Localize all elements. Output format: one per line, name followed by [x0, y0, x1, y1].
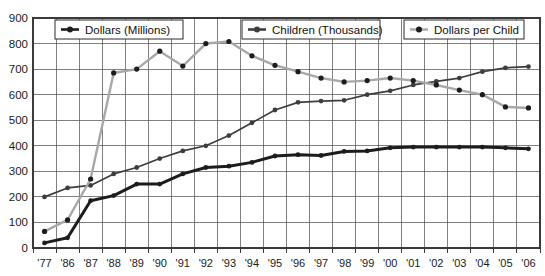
data-point	[295, 69, 300, 74]
x-axis-tick-label: '89	[130, 257, 144, 269]
legend-item-1: Children (Thousands)	[242, 20, 383, 39]
x-axis-tick-label: '00	[383, 257, 397, 269]
data-point	[388, 145, 393, 150]
data-point	[250, 120, 255, 125]
data-point	[42, 240, 47, 245]
data-point	[319, 153, 324, 158]
y-axis-tick-label: 400	[9, 140, 28, 152]
data-point	[65, 217, 70, 222]
data-point	[203, 41, 208, 46]
data-point	[226, 164, 231, 169]
x-axis-tick-label: '92	[199, 257, 213, 269]
x-axis-tick-label: '88	[106, 257, 120, 269]
data-point	[273, 108, 278, 113]
chart-legend: Dollars (Millions)Children (Thousands)Do…	[55, 20, 524, 39]
data-point	[134, 165, 139, 170]
data-point	[111, 70, 116, 75]
data-point	[157, 182, 162, 187]
data-point	[318, 75, 323, 80]
y-axis-tick-label: 900	[9, 12, 28, 24]
y-axis-tick-label: 0	[22, 242, 28, 254]
data-point	[434, 145, 439, 150]
data-point	[226, 39, 231, 44]
x-axis-tick-label: '96	[291, 257, 305, 269]
data-point	[180, 148, 185, 153]
x-axis-tick-label: '94	[245, 257, 259, 269]
data-point	[134, 182, 139, 187]
x-axis-tick-label: '05	[498, 257, 512, 269]
data-point	[411, 78, 416, 83]
x-axis-tick-label: '86	[60, 257, 74, 269]
x-axis-tick-label: '93	[222, 257, 236, 269]
data-point	[296, 100, 301, 105]
data-point	[526, 105, 531, 110]
data-point	[42, 194, 47, 199]
x-axis-tick-label: '90	[153, 257, 167, 269]
data-point	[526, 146, 531, 151]
data-point	[365, 148, 370, 153]
data-point	[457, 87, 462, 92]
data-point	[180, 171, 185, 176]
data-point	[319, 99, 324, 104]
data-point	[342, 149, 347, 154]
x-axis-tick-label: '02	[429, 257, 443, 269]
data-point	[226, 133, 231, 138]
data-point	[411, 145, 416, 150]
data-point	[526, 64, 531, 69]
data-point	[457, 76, 462, 81]
x-axis-tick-label: '87	[83, 257, 97, 269]
y-axis-tick-labels: 9008007006005004003002001000	[9, 12, 28, 254]
legend-label: Dollars (Millions)	[85, 24, 170, 36]
chart-canvas: 9008007006005004003002001000 '77'86'87'8…	[0, 0, 545, 276]
data-point	[365, 78, 370, 83]
data-point	[272, 63, 277, 68]
x-axis-tick-label: '99	[360, 257, 374, 269]
data-point	[180, 63, 185, 68]
data-point	[111, 171, 116, 176]
data-point	[88, 176, 93, 181]
data-point	[388, 75, 393, 80]
data-point	[480, 145, 485, 150]
data-point	[296, 152, 301, 157]
data-point	[157, 156, 162, 161]
y-axis-tick-label: 500	[9, 114, 28, 126]
line-chart: 9008007006005004003002001000 '77'86'87'8…	[0, 0, 545, 276]
x-axis-tick-label: '91	[176, 257, 190, 269]
data-point	[503, 65, 508, 70]
x-axis-tick-label: '97	[314, 257, 328, 269]
y-axis-tick-label: 200	[9, 191, 28, 203]
y-axis-tick-label: 300	[9, 165, 28, 177]
data-point	[65, 186, 70, 191]
data-point	[480, 69, 485, 74]
data-point	[273, 154, 278, 159]
data-point	[342, 79, 347, 84]
data-point	[42, 229, 47, 234]
y-axis-tick-label: 800	[9, 38, 28, 50]
x-axis-tick-label: '01	[406, 257, 420, 269]
data-point	[388, 88, 393, 93]
data-point	[249, 53, 254, 58]
x-axis-tick-label: '03	[452, 257, 466, 269]
x-axis-tick-label: '06	[521, 257, 535, 269]
legend-item-0: Dollars (Millions)	[55, 20, 183, 39]
legend-label: Children (Thousands)	[272, 24, 383, 36]
x-axis-tick-labels: '77'86'87'88'89'90'91'92'93'94'95'96'97'…	[33, 248, 540, 269]
data-point	[250, 160, 255, 165]
legend-swatch-marker	[67, 27, 73, 33]
data-point	[134, 67, 139, 72]
y-axis-tick-label: 600	[9, 89, 28, 101]
data-point	[480, 92, 485, 97]
data-point	[457, 145, 462, 150]
x-axis-tick-label: '95	[268, 257, 282, 269]
data-point	[342, 98, 347, 103]
data-point	[503, 104, 508, 109]
y-axis-tick-label: 700	[9, 63, 28, 75]
data-point	[111, 193, 116, 198]
y-axis-tick-label: 100	[9, 216, 28, 228]
data-point	[411, 83, 416, 88]
data-point	[65, 235, 70, 240]
gridlines	[33, 18, 540, 248]
x-axis-tick-label: '04	[475, 257, 489, 269]
data-point	[503, 145, 508, 150]
x-axis-tick-label: '98	[337, 257, 351, 269]
